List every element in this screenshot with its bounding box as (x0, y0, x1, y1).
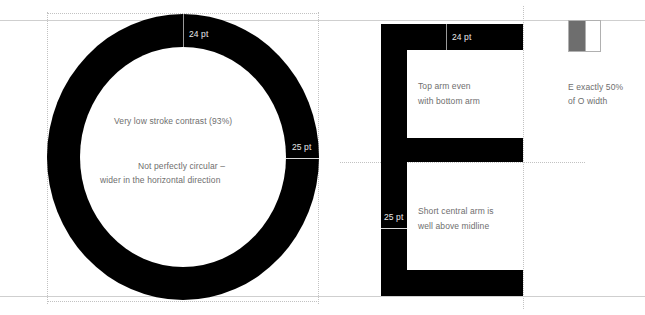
swatch-divider (585, 21, 586, 51)
o-stroke-contrast-note: Very low stroke contrast (93%) (114, 115, 232, 127)
letter-e-middle-arm (381, 138, 523, 162)
comparison-caption-line1: E exactly 50% (568, 81, 623, 93)
swatch-filled-half (569, 21, 585, 51)
e-arms-note-line2: with bottom arm (418, 95, 480, 107)
e-midline-guide (340, 162, 585, 163)
o-overshoot-bottom-guide (47, 301, 319, 302)
o-shape-note-line2: wider in the horizontal direction (100, 174, 220, 186)
e-stem-label: 25 pt (384, 211, 403, 223)
e-stem-tick (381, 228, 407, 229)
e-top-arm-tick (446, 24, 447, 50)
o-shape-note-line1: Not perfectly circular – (138, 160, 225, 172)
letter-o-counter (80, 47, 286, 267)
e-right-sidebearing-guide (523, 6, 524, 309)
letter-e-bottom-arm (381, 270, 523, 296)
typography-diagram: 24 pt 25 pt Very low stroke contrast (93… (0, 0, 645, 315)
e-top-arm-label: 24 pt (452, 31, 471, 43)
e-middle-arm-note-line2: well above midline (418, 220, 489, 232)
o-top-stroke-label: 24 pt (189, 28, 208, 40)
e-middle-arm-note-line1: Short central arm is (418, 205, 494, 217)
comparison-caption-line2: of O width (568, 95, 607, 107)
e-to-o-width-swatch (568, 20, 601, 52)
o-right-stroke-label: 25 pt (292, 141, 311, 153)
o-top-stroke-tick (183, 14, 184, 47)
baseline-rule-right (330, 296, 645, 297)
e-arms-note-line1: Top arm even (418, 80, 471, 92)
o-right-stroke-tick (286, 158, 319, 159)
